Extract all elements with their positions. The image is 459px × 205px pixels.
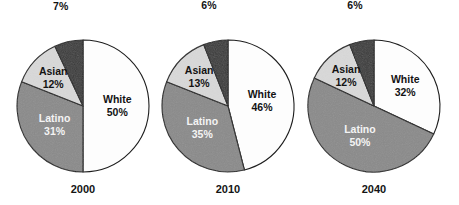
slice-name-label: Latino [187, 115, 219, 127]
slice-value-label: 13% [189, 77, 211, 89]
charts-root: White50%Latino31%Asian12%Black7%2000Whit… [17, 0, 440, 195]
pie-chart-2000: White50%Latino31%Asian12%Black7%2000 [17, 0, 149, 195]
slice-name-label: Asian [39, 65, 68, 77]
slice-name-label: Latino [344, 123, 376, 135]
pie-chart-figure: White50%Latino31%Asian12%Black7%2000Whit… [0, 0, 459, 205]
slice-value-label: 32% [395, 86, 417, 98]
slice-name-label: Asian [185, 64, 214, 76]
slice-name-label: White [391, 73, 420, 85]
slice-name-label: Asian [332, 63, 361, 75]
slice-value-label: 6% [347, 0, 363, 11]
pie-chart-2040: White32%Latino50%Asian12%Black6%2040 [308, 0, 440, 195]
slice-value-label: 7% [53, 0, 69, 12]
slice-value-label: 50% [107, 106, 129, 118]
slice-value-label: 50% [349, 136, 371, 148]
slice-value-label: 12% [335, 76, 357, 88]
pie-chart-2010: White46%Latino35%Asian13%Black6%2010 [162, 0, 294, 195]
year-label-2000: 2000 [71, 183, 95, 195]
slice-name-label: White [103, 93, 132, 105]
slice-value-label: 12% [43, 78, 65, 90]
slice-name-label: Latino [39, 112, 71, 124]
year-label-2010: 2010 [216, 183, 240, 195]
slice-value-label: 6% [201, 0, 217, 11]
slice-value-label: 46% [251, 101, 273, 113]
slice-value-label: 35% [192, 128, 214, 140]
slice-name-label: White [248, 88, 277, 100]
chart-canvas: White50%Latino31%Asian12%Black7%2000Whit… [0, 0, 459, 205]
slice-value-label: 31% [44, 125, 66, 137]
year-label-2040: 2040 [362, 183, 386, 195]
